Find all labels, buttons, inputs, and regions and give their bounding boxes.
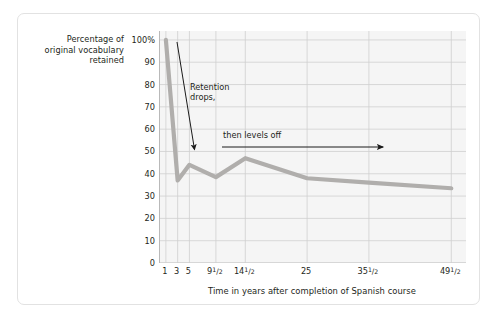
y-tick-label: 60 <box>110 124 155 134</box>
y-tick-label: 90 <box>110 57 155 67</box>
y-tick-label: 10 <box>110 236 155 246</box>
vertical-grid-lines <box>166 31 451 263</box>
x-axis-title: Time in years after completion of Spanis… <box>159 286 465 296</box>
annotation-then-levels-off: then levels off <box>223 130 281 140</box>
annotation-retention-drops: Retention drops, <box>190 82 229 103</box>
y-tick-label: 70 <box>110 102 155 112</box>
y-tick-label: 30 <box>110 191 155 201</box>
chart-plot-svg <box>160 31 466 263</box>
x-tick-label: 491/2 <box>440 266 461 276</box>
x-tick-label: 141/2 <box>234 266 255 276</box>
y-tick-label: 20 <box>110 213 155 223</box>
figure-root: Percentage of original vocabulary retain… <box>0 0 497 320</box>
y-axis-label-line-1: Percentage of <box>20 34 124 45</box>
y-tick-label: 100% <box>110 35 155 45</box>
x-tick-label: 91/2 <box>207 266 223 276</box>
y-axis-label-line-3: retained <box>20 55 124 66</box>
x-tick-label: 5 <box>186 266 191 276</box>
x-tick-label: 25 <box>301 266 311 276</box>
x-tick-label: 351/2 <box>357 266 378 276</box>
y-axis-label: Percentage of original vocabulary retain… <box>20 34 124 66</box>
x-tick-label: 3 <box>174 266 179 276</box>
plot-area <box>159 31 466 263</box>
x-axis-tick-labels: 13591/2141/225351/2491/2 <box>0 266 497 282</box>
x-tick-label: 1 <box>162 266 167 276</box>
y-tick-label: 80 <box>110 80 155 90</box>
y-axis-label-line-2: original vocabulary <box>20 45 124 56</box>
horizontal-grid-lines <box>160 40 466 263</box>
y-tick-label: 50 <box>110 146 155 156</box>
y-tick-label: 40 <box>110 169 155 179</box>
